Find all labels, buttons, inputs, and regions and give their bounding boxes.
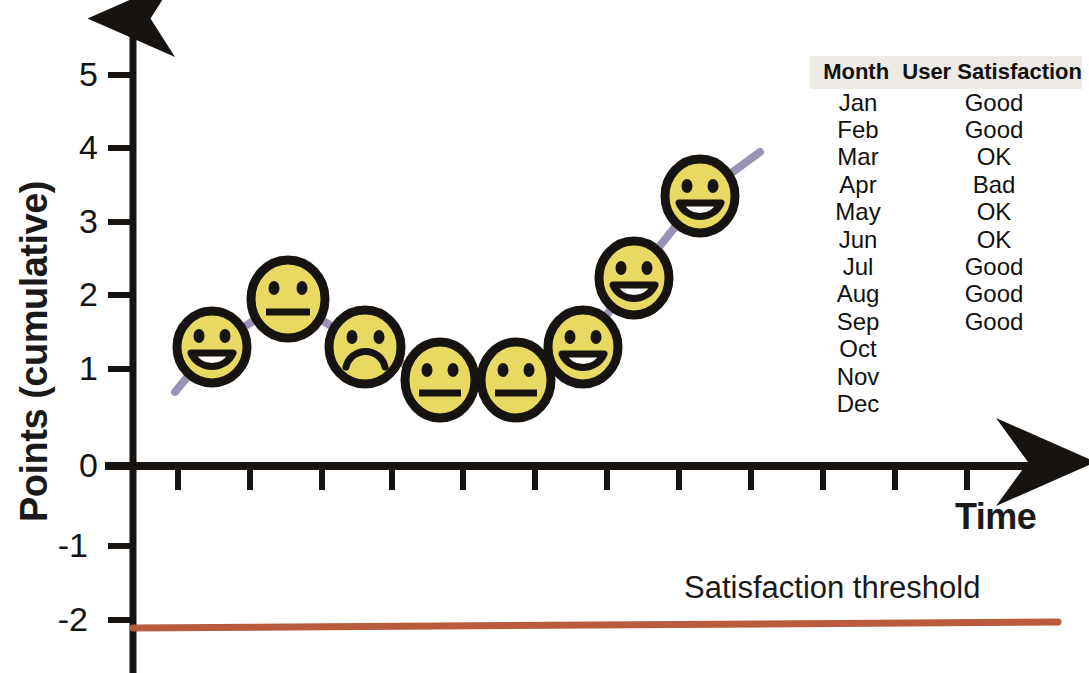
table-cell-month: Feb (810, 116, 906, 144)
table-header-month: Month (810, 59, 902, 85)
satisfaction-table: Month User Satisfaction JanGoodFebGoodMa… (810, 56, 1082, 418)
table-cell-satisfaction: Bad (906, 171, 1082, 199)
table-row: AprBad (810, 171, 1082, 198)
table-cell-month: Apr (810, 171, 906, 199)
table-cell-satisfaction: Good (906, 116, 1082, 144)
table-row: Nov (810, 363, 1082, 390)
table-cell-month: Jan (810, 89, 906, 117)
table-cell-month: Dec (810, 390, 906, 418)
table-row: JanGood (810, 89, 1082, 116)
data-point-feb (251, 260, 325, 338)
table-body: JanGoodFebGoodMarOKAprBadMayOKJunOKJulGo… (810, 89, 1082, 418)
table-cell-month: May (810, 198, 906, 226)
table-cell-satisfaction: OK (906, 143, 1082, 171)
table-row: JunOK (810, 226, 1082, 253)
table-cell-month: Jul (810, 253, 906, 281)
data-point-jul (599, 241, 669, 315)
data-point-jun (548, 310, 618, 384)
table-cell-month: Nov (810, 363, 906, 391)
table-cell-satisfaction: OK (906, 226, 1082, 254)
satisfaction-threshold-line (133, 622, 1058, 628)
table-cell-month: Sep (810, 308, 906, 336)
table-cell-satisfaction: Good (906, 89, 1082, 117)
table-row: Oct (810, 336, 1082, 363)
table-row: JulGood (810, 253, 1082, 280)
table-cell-satisfaction: Good (906, 253, 1082, 281)
chart-canvas: Points (cumulative) 5 4 3 2 1 0 -1 -2 (0, 0, 1089, 673)
threshold-label: Satisfaction threshold (684, 570, 980, 606)
x-axis-title: Time (955, 496, 1036, 538)
table-row: MayOK (810, 199, 1082, 226)
table-row: SepGood (810, 308, 1082, 335)
table-cell-month: Mar (810, 143, 906, 171)
table-header-row: Month User Satisfaction (810, 56, 1082, 89)
data-point-aug (665, 159, 735, 233)
table-cell-month: Oct (810, 335, 906, 363)
table-row: Dec (810, 390, 1082, 417)
y-axis (108, 22, 133, 673)
table-cell-month: Aug (810, 280, 906, 308)
data-point-mar (329, 310, 401, 384)
table-header-satisfaction: User Satisfaction (902, 59, 1082, 85)
x-axis (105, 466, 1040, 490)
table-row: MarOK (810, 144, 1082, 171)
data-point-may (481, 342, 551, 418)
data-point-jan (177, 311, 247, 383)
table-cell-satisfaction: OK (906, 198, 1082, 226)
table-cell-month: Jun (810, 226, 906, 254)
data-point-apr (405, 342, 475, 418)
table-cell-satisfaction: Good (906, 308, 1082, 336)
table-cell-satisfaction: Good (906, 280, 1082, 308)
table-row: AugGood (810, 281, 1082, 308)
table-row: FebGood (810, 116, 1082, 143)
